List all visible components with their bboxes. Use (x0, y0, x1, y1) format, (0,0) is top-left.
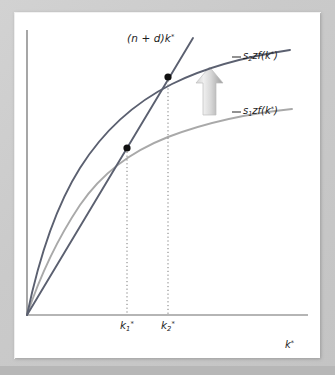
x-tick-label-k1: k1* (120, 320, 134, 333)
x-tick-label-k2: k2* (161, 320, 175, 333)
k1-superscript: * (130, 320, 133, 328)
s2-close: ) (274, 50, 278, 61)
nd-superscript: * (171, 33, 174, 41)
steady-state-point-1 (123, 144, 130, 151)
s1-mid: zf( (252, 105, 265, 116)
chart-canvas (0, 0, 335, 375)
s2-mid: zf( (252, 50, 265, 61)
s1-close: ) (274, 105, 278, 116)
low-savings-curve-label: s1zf(k*) (243, 106, 278, 117)
nd-prefix: (n + d) (127, 32, 165, 44)
curve-s2zf (27, 50, 290, 315)
high-savings-curve-label: s2zf(k*) (243, 51, 278, 62)
shift-up-arrow-icon (196, 67, 223, 115)
x-axis-label: k* (285, 340, 294, 350)
k2-superscript: * (171, 320, 174, 328)
curve-s1zf (27, 109, 292, 315)
steady-state-point-2 (164, 73, 171, 80)
solow-model-figure: (n + d)k* s2zf(k*) s1zf(k*) k1* k2* k* (0, 0, 335, 375)
xaxis-superscript: * (291, 339, 294, 347)
depreciation-line-label: (n + d)k* (127, 33, 174, 44)
